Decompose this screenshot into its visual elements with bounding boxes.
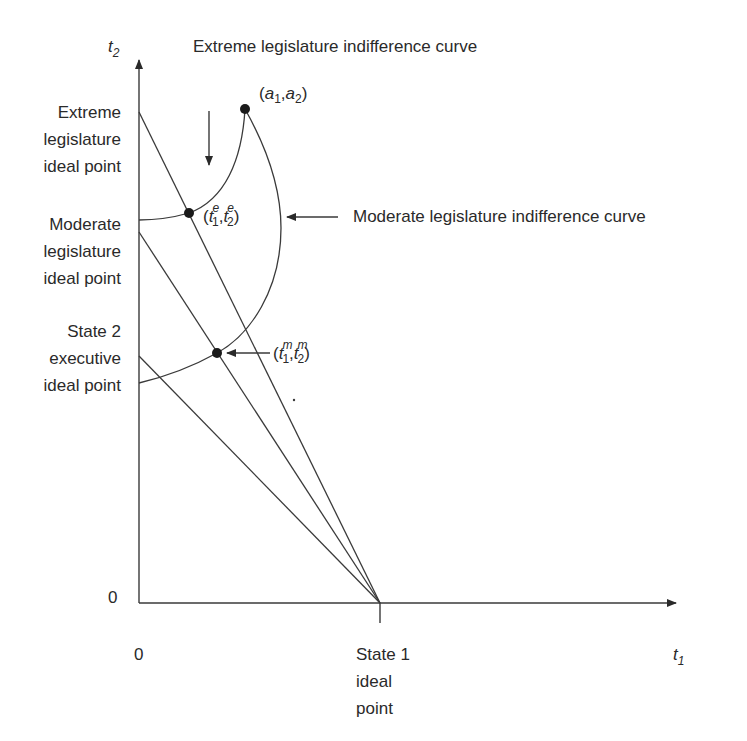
- state1-ideal-point-label: State 1 ideal point: [356, 645, 410, 718]
- extreme-ideal-point-label: Extreme legislature ideal point: [43, 103, 121, 176]
- svg-text:State 1: State 1: [356, 645, 410, 664]
- point-tm: [212, 348, 222, 358]
- svg-text:legislature: legislature: [44, 130, 122, 149]
- svg-text:ideal point: ideal point: [43, 157, 121, 176]
- indifference-diagram: Extreme legislature indifference curve M…: [0, 0, 747, 741]
- x-axis-title: t1: [673, 645, 684, 668]
- x-origin-label: 0: [134, 645, 143, 664]
- svg-text:State 2: State 2: [67, 322, 121, 341]
- moderate-ideal-point-label: Moderate legislature ideal point: [43, 215, 121, 288]
- point-a-label: (a1,a2): [259, 84, 307, 106]
- y-origin-label: 0: [108, 588, 117, 607]
- svg-text:ideal: ideal: [356, 672, 392, 691]
- point-te: [184, 208, 194, 218]
- svg-text:ideal point: ideal point: [43, 269, 121, 288]
- svg-text:legislature: legislature: [44, 242, 122, 261]
- extreme-curve-label: Extreme legislature indifference curve: [193, 37, 477, 56]
- svg-text:ideal point: ideal point: [43, 376, 121, 395]
- point-te-label: (te1,te2): [203, 201, 239, 229]
- svg-text:Extreme: Extreme: [58, 103, 121, 122]
- svg-text:Moderate: Moderate: [49, 215, 121, 234]
- svg-text:executive: executive: [49, 349, 121, 368]
- point-tm-label: (tm1,tm2): [273, 338, 310, 366]
- moderate-line: [139, 232, 380, 603]
- svg-text:point: point: [356, 699, 393, 718]
- y-axis-title: t2: [108, 37, 120, 60]
- diagram-canvas: Extreme legislature indifference curve M…: [0, 0, 747, 741]
- moderate-curve-label: Moderate legislature indifference curve: [353, 207, 646, 226]
- state2-line: [139, 356, 380, 603]
- point-a: [240, 104, 250, 114]
- stray-mark: [293, 399, 295, 401]
- state2-ideal-point-label: State 2 executive ideal point: [43, 322, 121, 395]
- extreme-line: [139, 112, 380, 603]
